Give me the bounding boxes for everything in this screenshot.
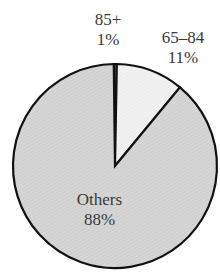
label-85plus-pct: 1% — [88, 30, 128, 50]
label-85plus: 85+ 1% — [88, 10, 128, 50]
label-65-84: 65–84 11% — [148, 28, 218, 68]
label-65-84-name: 65–84 — [148, 28, 218, 48]
label-others: Others 88% — [62, 190, 137, 230]
label-85plus-name: 85+ — [88, 10, 128, 30]
pie-slices — [13, 64, 217, 268]
label-65-84-pct: 11% — [148, 48, 218, 68]
slice-others — [13, 64, 217, 268]
label-others-name: Others — [62, 190, 137, 210]
label-others-pct: 88% — [62, 210, 137, 230]
